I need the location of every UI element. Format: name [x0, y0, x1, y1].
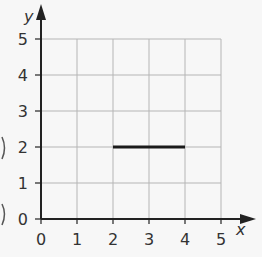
left-edge-bracket	[2, 137, 5, 159]
x-tick-label: 5	[216, 230, 226, 249]
x-tick-label: 1	[72, 230, 82, 249]
x-tick-label: 3	[144, 230, 154, 249]
y-tick-label: 2	[18, 138, 28, 157]
y-tick-label: 5	[18, 30, 28, 49]
y-tick-label: 4	[18, 66, 28, 85]
y-tick-label: 0	[18, 210, 28, 229]
coordinate-plane: 012345012345 x y	[0, 0, 262, 257]
grid-lines	[41, 39, 221, 219]
left-edge-bracket	[2, 204, 5, 225]
tick-labels: 012345012345	[18, 30, 226, 249]
y-axis-label: y	[23, 7, 34, 26]
x-tick-label: 4	[180, 230, 190, 249]
x-tick-label: 2	[108, 230, 118, 249]
y-axis-arrow-icon	[36, 4, 46, 20]
x-axis-label: x	[235, 220, 246, 239]
axes	[35, 4, 256, 224]
y-tick-label: 1	[18, 174, 28, 193]
x-tick-label: 0	[36, 230, 46, 249]
y-tick-label: 3	[18, 102, 28, 121]
